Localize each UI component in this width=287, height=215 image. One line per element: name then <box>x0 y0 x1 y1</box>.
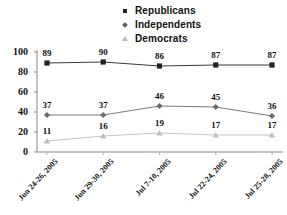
data-point-value-label: 19 <box>155 118 164 128</box>
y-axis-tick-label: 60 <box>2 86 28 97</box>
chart-container: Republicans Independents Democrats 02040… <box>0 0 287 215</box>
data-point-value-label: 46 <box>155 91 164 101</box>
data-point-marker <box>44 60 49 65</box>
data-point-value-label: 37 <box>43 100 52 110</box>
data-point-value-label: 87 <box>268 50 277 60</box>
data-point-marker <box>100 112 106 118</box>
data-point-value-label: 17 <box>211 120 220 130</box>
data-point-value-label: 11 <box>43 126 52 136</box>
data-point-marker <box>157 63 162 68</box>
data-point-value-label: 87 <box>211 50 220 60</box>
data-point-value-label: 16 <box>99 121 108 131</box>
y-axis-tick-label: 20 <box>2 126 28 137</box>
data-point-marker <box>44 112 50 118</box>
data-point-value-label: 37 <box>99 100 108 110</box>
data-point-marker <box>269 62 274 67</box>
data-point-marker <box>213 62 218 67</box>
data-point-value-label: 90 <box>99 47 108 57</box>
data-point-value-label: 86 <box>155 51 164 61</box>
data-point-marker <box>269 113 275 119</box>
data-point-marker <box>101 59 106 64</box>
y-axis-tick-label: 0 <box>2 146 28 157</box>
y-axis-tick-label: 40 <box>2 106 28 117</box>
data-point-value-label: 17 <box>268 120 277 130</box>
data-point-value-label: 45 <box>211 92 220 102</box>
y-axis-tick-label: 100 <box>2 46 28 57</box>
y-axis-tick-label: 80 <box>2 66 28 77</box>
data-point-marker <box>156 103 162 109</box>
data-point-value-label: 89 <box>43 48 52 58</box>
data-point-marker <box>213 104 219 110</box>
data-point-value-label: 36 <box>268 101 277 111</box>
